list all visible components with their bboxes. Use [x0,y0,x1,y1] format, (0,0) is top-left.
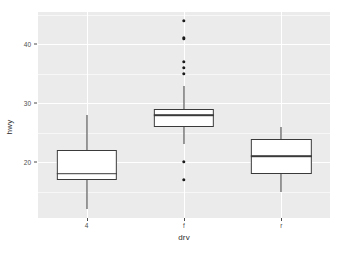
y-axis-tick-mark [34,103,37,104]
y-axis-tick-label: 40 [10,41,35,48]
boxplot-box-r [38,12,330,218]
x-axis-tick-mark [281,218,282,221]
x-axis-tick-label: 4 [85,222,89,229]
median-line [251,155,311,157]
x-axis-tick-mark [87,218,88,221]
y-axis-tick-mark [34,162,37,163]
whisker-upper [281,127,282,139]
x-axis-title: drv [38,233,330,242]
x-axis-tick-mark [184,218,185,221]
x-axis-tick-label: f [183,222,185,229]
y-axis-tick-label: 30 [10,100,35,107]
x-axis-tick-label: r [280,222,282,229]
y-axis-tick-label: 20 [10,159,35,166]
y-axis-tick-labels: 203040 [10,0,35,254]
boxplot-figure: hwy 203040 drv 4fr [0,0,346,254]
whisker-lower [281,174,282,192]
y-axis-tick-mark [34,44,37,45]
plot-panel [38,12,330,218]
